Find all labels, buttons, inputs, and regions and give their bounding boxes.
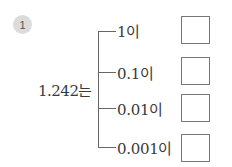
branch-line — [98, 72, 116, 73]
answer-box-hundredths[interactable] — [181, 94, 210, 122]
answer-box-ones[interactable] — [181, 16, 210, 44]
bracket-vertical-line — [98, 31, 99, 148]
branch-line — [98, 108, 116, 109]
branch-line — [98, 147, 116, 148]
answer-box-thousandths[interactable] — [181, 134, 210, 162]
branch-line — [98, 31, 116, 32]
problem-number-badge: 1 — [13, 15, 32, 34]
branch-label-hundredths: 0.01이 — [117, 98, 163, 119]
branch-label-ones: 1이 — [117, 20, 140, 41]
lead-number-text: 1.242는 — [38, 79, 92, 100]
answer-box-tenths[interactable] — [181, 57, 210, 85]
branch-label-thousandths: 0.001이 — [117, 137, 172, 158]
branch-label-tenths: 0.1이 — [117, 62, 154, 83]
